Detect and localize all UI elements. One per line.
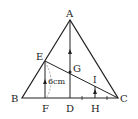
label-6cm: 6cm <box>48 77 66 86</box>
label-g: G <box>73 63 81 74</box>
label-c: C <box>120 93 128 104</box>
label-b: B <box>11 93 18 104</box>
geometry-diagram: A B C D E F G H I 6cm <box>0 0 138 119</box>
point-g-dot <box>69 71 72 74</box>
label-a: A <box>65 8 74 19</box>
parallel-arrow-ad <box>68 49 72 54</box>
label-i: I <box>93 75 97 85</box>
label-e: E <box>36 51 43 62</box>
parallel-arrow-ef <box>43 79 47 84</box>
label-f: F <box>42 103 49 114</box>
label-d: D <box>66 103 74 114</box>
parallel-arrow-ih <box>93 89 97 94</box>
label-h: H <box>91 103 100 114</box>
